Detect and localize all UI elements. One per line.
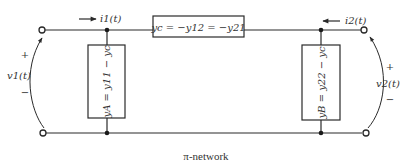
voltage-arc-port1: [30, 38, 44, 128]
series-admittance-label: yc = −y12 = −y21: [150, 22, 245, 33]
port1-plus-sign: +: [21, 49, 29, 60]
junction-bottom-left: [105, 131, 110, 136]
left-shunt-admittance-ya: yA = y11 − yc: [88, 45, 125, 118]
left-shunt-label: yA = y11 − yc: [101, 45, 112, 118]
port2-plus-sign: +: [386, 61, 394, 72]
pi-network-diagram: yc = −y12 = −y21 yA = y11 − yc yB = y22 …: [0, 0, 414, 162]
terminal-port2-bottom: [363, 130, 369, 136]
voltage-label-v1: v1(t): [7, 70, 31, 81]
right-shunt-label: yB = y22 − yc: [316, 46, 327, 119]
diagram-caption: π-network: [183, 150, 229, 162]
junction-bottom-right: [319, 131, 324, 136]
right-shunt-admittance-yb: yB = y22 − yc: [302, 45, 340, 120]
current-label-i1: i1(t): [100, 13, 121, 24]
junction-top-right: [319, 28, 324, 33]
terminal-port1-top: [39, 27, 45, 33]
port1-minus-sign: −: [21, 87, 29, 98]
terminal-port1-bottom: [40, 130, 46, 136]
terminal-port2-top: [361, 27, 367, 33]
port2-minus-sign: −: [386, 94, 394, 105]
junction-top-left: [105, 28, 110, 33]
current-label-i2: i2(t): [345, 15, 366, 26]
series-admittance-yc: yc = −y12 = −y21: [150, 16, 245, 37]
voltage-label-v2: v2(t): [376, 78, 400, 89]
